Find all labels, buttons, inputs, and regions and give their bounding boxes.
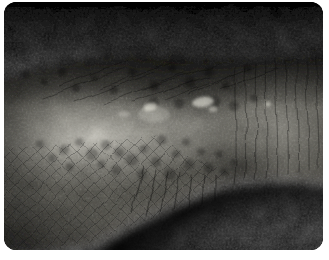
page bbox=[0, 0, 329, 260]
clinical-photo bbox=[4, 2, 323, 250]
photo-canvas bbox=[4, 2, 323, 250]
